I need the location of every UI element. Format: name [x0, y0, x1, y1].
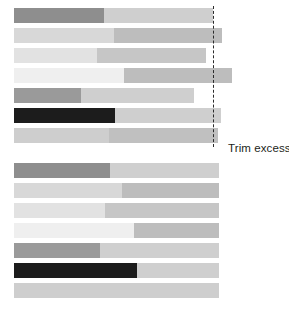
bar-segment-trailing — [137, 263, 219, 278]
bar-segment-leading — [14, 203, 105, 218]
bar-segment-trailing — [100, 243, 219, 258]
stacked-bar — [14, 48, 206, 63]
bar-segment-trailing — [110, 283, 219, 298]
trim-boundary-dashed-line — [213, 6, 214, 147]
stacked-bar — [14, 223, 219, 238]
bar-segment-leading — [14, 263, 137, 278]
trim-excess-label: Trim excess — [228, 142, 289, 155]
stacked-bar — [14, 68, 232, 83]
bar-segment-leading — [14, 223, 134, 238]
bar-segment-leading — [14, 128, 109, 143]
bar-segment-trailing — [134, 223, 219, 238]
stacked-bar — [14, 88, 194, 103]
bar-segment-trailing — [115, 108, 221, 123]
stacked-bar — [14, 183, 219, 198]
stacked-bar — [14, 128, 218, 143]
stacked-bar — [14, 108, 221, 123]
stacked-bar — [14, 163, 219, 178]
bar-segment-leading — [14, 88, 81, 103]
diagram-canvas: Trim excess — [0, 0, 289, 314]
bar-segment-leading — [14, 163, 110, 178]
bar-segment-leading — [14, 48, 97, 63]
bar-segment-leading — [14, 28, 114, 43]
bar-segment-trailing — [124, 68, 232, 83]
stacked-bar — [14, 283, 219, 298]
bar-segment-trailing — [122, 183, 219, 198]
bar-segment-trailing — [81, 88, 194, 103]
bar-segment-leading — [14, 108, 115, 123]
bar-segment-trailing — [110, 163, 219, 178]
stacked-bar — [14, 28, 222, 43]
stacked-bar — [14, 243, 219, 258]
stacked-bar — [14, 203, 219, 218]
bar-segment-leading — [14, 68, 124, 83]
bar-segment-trailing — [105, 203, 219, 218]
bar-segment-trailing — [97, 48, 206, 63]
stacked-bar — [14, 263, 219, 278]
bar-segment-trailing — [104, 8, 213, 23]
stacked-bar — [14, 8, 213, 23]
bar-segment-leading — [14, 8, 104, 23]
bar-segment-trailing — [114, 28, 222, 43]
bar-segment-leading — [14, 243, 100, 258]
bar-segment-leading — [14, 183, 122, 198]
bar-segment-trailing — [109, 128, 218, 143]
bar-segment-leading — [14, 283, 110, 298]
